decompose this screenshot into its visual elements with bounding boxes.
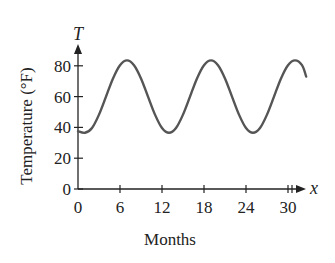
x-tick-label: 0: [74, 198, 83, 217]
x-axis-arrow: [296, 185, 306, 193]
x-tick-label: 12: [154, 198, 171, 217]
series-line-temperature: [78, 60, 306, 132]
x-tick-label: 24: [238, 198, 256, 217]
y-axis-title: Temperature (°F): [17, 67, 36, 184]
y-axis-letter: T: [73, 24, 85, 44]
x-axis-title: Months: [144, 230, 196, 249]
x-tick-label: 30: [280, 198, 297, 217]
x-tick-label: 18: [196, 198, 213, 217]
y-tick-label: 80: [54, 57, 71, 76]
x-tick-label: 6: [116, 198, 125, 217]
y-tick-label: 0: [63, 180, 72, 199]
chart: x T Months Temperature (°F) 0612182430 0…: [0, 0, 335, 263]
x-axis-letter: x: [309, 178, 318, 198]
y-tick-label: 40: [54, 118, 71, 137]
x-ticks: 0612182430: [74, 185, 297, 217]
y-tick-label: 20: [54, 149, 71, 168]
series-group: [78, 60, 306, 132]
y-axis-arrow: [74, 44, 82, 54]
y-tick-label: 60: [54, 88, 71, 107]
